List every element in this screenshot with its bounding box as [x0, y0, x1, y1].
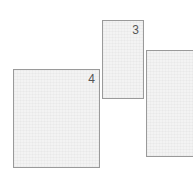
- panel-label-4: 4: [88, 73, 95, 85]
- panel-4: 4: [13, 69, 100, 168]
- panel-right: [146, 50, 193, 157]
- panel-3: 3: [102, 20, 144, 99]
- panel-label-3: 3: [132, 24, 139, 36]
